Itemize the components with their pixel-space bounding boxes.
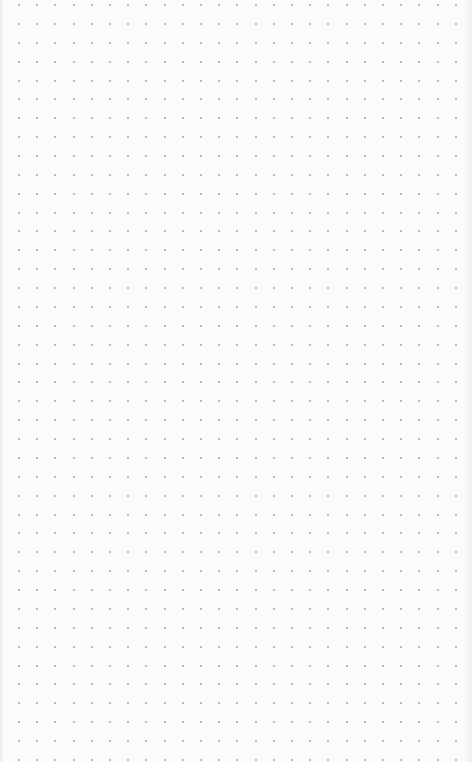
- grid-dot: [145, 381, 147, 383]
- grid-dot: [346, 42, 348, 44]
- grid-dot: [73, 23, 75, 25]
- grid-dot: [455, 608, 457, 610]
- grid-dot: [54, 514, 56, 516]
- grid-dot: [327, 174, 329, 176]
- grid-dot: [182, 759, 184, 761]
- grid-dot: [455, 249, 457, 251]
- grid-dot: [346, 230, 348, 232]
- grid-dot: [145, 212, 147, 214]
- grid-dot: [400, 230, 402, 232]
- grid-dot: [382, 702, 384, 704]
- grid-dot: [437, 306, 439, 308]
- grid-dot: [309, 759, 311, 761]
- grid-dot: [18, 608, 20, 610]
- grid-dot: [218, 268, 220, 270]
- grid-dot: [145, 646, 147, 648]
- grid-dot: [145, 23, 147, 25]
- grid-dot: [182, 438, 184, 440]
- grid-dot: [18, 721, 20, 723]
- grid-dot: [346, 193, 348, 195]
- grid-dot: [36, 287, 38, 289]
- grid-dot: [418, 476, 420, 478]
- grid-dot: [54, 400, 56, 402]
- grid-dot: [91, 23, 93, 25]
- grid-dot: [346, 136, 348, 138]
- grid-dot: [255, 23, 257, 25]
- grid-dot: [418, 287, 420, 289]
- grid-dot: [437, 438, 439, 440]
- grid-dot: [327, 400, 329, 402]
- grid-dot: [273, 627, 275, 629]
- grid-dot: [236, 174, 238, 176]
- grid-dot: [145, 98, 147, 100]
- grid-dot: [145, 665, 147, 667]
- grid-dot: [291, 381, 293, 383]
- grid-dot: [455, 193, 457, 195]
- grid-dot: [109, 193, 111, 195]
- grid-dot: [182, 98, 184, 100]
- grid-dot: [18, 193, 20, 195]
- grid-dot: [36, 268, 38, 270]
- grid-dot: [36, 589, 38, 591]
- grid-dot: [200, 759, 202, 761]
- grid-dot: [18, 4, 20, 6]
- grid-dot: [36, 740, 38, 742]
- grid-dot: [382, 438, 384, 440]
- grid-dot: [54, 155, 56, 157]
- grid-dot: [127, 249, 129, 251]
- grid-dot: [145, 570, 147, 572]
- grid-dot: [109, 589, 111, 591]
- grid-dot: [437, 155, 439, 157]
- grid-dot: [309, 740, 311, 742]
- grid-dot: [291, 759, 293, 761]
- grid-dot: [164, 306, 166, 308]
- grid-dot: [455, 42, 457, 44]
- grid-dot: [54, 476, 56, 478]
- grid-dot: [236, 419, 238, 421]
- grid-dot: [54, 589, 56, 591]
- grid-dot: [437, 419, 439, 421]
- grid-dot: [73, 230, 75, 232]
- grid-dot: [91, 155, 93, 157]
- grid-dot: [200, 532, 202, 534]
- grid-dot: [236, 268, 238, 270]
- grid-dot: [182, 589, 184, 591]
- grid-dot: [291, 117, 293, 119]
- grid-dot: [400, 117, 402, 119]
- grid-dot: [18, 589, 20, 591]
- grid-dot: [418, 4, 420, 6]
- grid-dot: [218, 551, 220, 553]
- grid-dot: [182, 457, 184, 459]
- grid-dot: [54, 438, 56, 440]
- grid-dot: [18, 155, 20, 157]
- grid-dot: [364, 42, 366, 44]
- grid-dot: [255, 514, 257, 516]
- grid-dot: [346, 287, 348, 289]
- grid-dot: [236, 363, 238, 365]
- grid-dot: [164, 61, 166, 63]
- grid-dot: [36, 495, 38, 497]
- grid-dot: [364, 306, 366, 308]
- grid-dot: [127, 230, 129, 232]
- grid-dot: [200, 683, 202, 685]
- grid-dot: [218, 61, 220, 63]
- grid-dot: [18, 136, 20, 138]
- grid-dot: [200, 325, 202, 327]
- grid-dot: [54, 61, 56, 63]
- grid-dot: [364, 495, 366, 497]
- dot-grid-canvas[interactable]: [0, 0, 472, 762]
- grid-dot: [145, 759, 147, 761]
- grid-dot: [36, 230, 38, 232]
- grid-dot: [273, 136, 275, 138]
- grid-dot: [273, 155, 275, 157]
- grid-dot: [327, 193, 329, 195]
- grid-dot: [273, 42, 275, 44]
- grid-dot: [346, 268, 348, 270]
- grid-dot: [400, 193, 402, 195]
- grid-dot: [382, 381, 384, 383]
- grid-dot: [273, 532, 275, 534]
- grid-dot: [218, 646, 220, 648]
- grid-dot: [400, 627, 402, 629]
- grid-dot: [418, 551, 420, 553]
- grid-dot: [18, 683, 20, 685]
